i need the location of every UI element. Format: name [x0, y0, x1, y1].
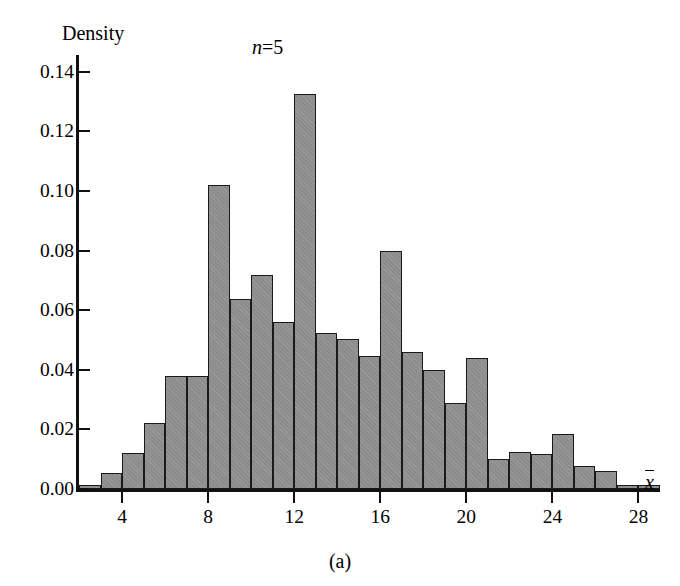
x-axis-tick: [293, 492, 295, 503]
histogram-bar: [617, 485, 639, 489]
x-axis-tick: [551, 492, 553, 503]
y-axis-tick: [79, 488, 90, 490]
y-axis-tick: [79, 130, 90, 132]
histogram-bar: [380, 251, 402, 489]
histogram-bar: [122, 453, 144, 489]
histogram-figure: Density 0.000.020.040.060.080.100.120.14…: [0, 0, 680, 586]
histogram-bar: [595, 471, 617, 489]
histogram-bar: [273, 322, 295, 489]
histogram-bar: [402, 352, 424, 489]
plot-area: 0.000.020.040.060.080.100.120.14 4812162…: [76, 55, 660, 491]
y-axis-tick-label: 0.10: [14, 181, 74, 201]
panel-label: (a): [0, 550, 680, 573]
y-axis-tick: [79, 71, 90, 73]
x-axis-title-label: x: [645, 470, 654, 492]
y-axis-tick: [79, 309, 90, 311]
y-axis-tick: [79, 250, 90, 252]
histogram-bar: [574, 466, 596, 489]
y-axis-tick-label: 0.12: [14, 121, 74, 141]
histogram-bar: [466, 358, 488, 489]
x-axis-tick-label: 20: [446, 507, 486, 527]
y-axis-tick-label: 0.08: [14, 241, 74, 261]
histogram-bar: [316, 333, 338, 489]
y-axis-tick: [79, 190, 90, 192]
histogram-bar: [509, 452, 531, 489]
x-axis-tick: [379, 492, 381, 503]
x-axis-tick: [207, 492, 209, 503]
y-axis-tick-label: 0.02: [14, 419, 74, 439]
y-axis-tick: [79, 428, 90, 430]
histogram-bars: [79, 55, 660, 491]
y-axis-tick-label: 0.00: [14, 479, 74, 499]
sample-size-equals: =: [262, 36, 273, 58]
histogram-bar: [531, 454, 553, 489]
histogram-bar: [144, 423, 166, 489]
x-axis-tick-label: 12: [274, 507, 314, 527]
x-axis-tick-label: 16: [360, 507, 400, 527]
sample-size-annotation: n=5: [252, 36, 283, 59]
histogram-bar: [230, 299, 252, 489]
histogram-bar: [488, 459, 510, 489]
y-axis-tick-label: 0.04: [14, 360, 74, 380]
histogram-bar: [337, 339, 359, 489]
x-axis-tick: [465, 492, 467, 503]
histogram-bar: [294, 94, 316, 489]
y-axis-tick-label: 0.14: [14, 62, 74, 82]
x-axis-tick-label: 8: [188, 507, 228, 527]
x-axis-tick: [637, 492, 639, 503]
x-axis-tick: [121, 492, 123, 503]
y-axis-title: Density: [62, 22, 124, 45]
histogram-bar: [101, 473, 123, 489]
y-axis-tick: [79, 369, 90, 371]
x-axis-tick-label: 4: [102, 507, 142, 527]
histogram-bar: [251, 275, 273, 490]
x-axis-tick-label: 28: [618, 507, 658, 527]
histogram-bar: [165, 376, 187, 489]
histogram-bar: [359, 356, 381, 489]
y-axis-tick-label: 0.06: [14, 300, 74, 320]
histogram-bar: [187, 376, 209, 489]
histogram-bar: [552, 434, 574, 489]
histogram-bar: [445, 403, 467, 489]
sample-size-value: 5: [273, 36, 283, 58]
x-axis-tick-label: 24: [532, 507, 572, 527]
histogram-bar: [208, 185, 230, 489]
histogram-bar: [423, 370, 445, 489]
sample-size-symbol: n: [252, 36, 262, 58]
x-axis-title: x: [645, 470, 654, 494]
